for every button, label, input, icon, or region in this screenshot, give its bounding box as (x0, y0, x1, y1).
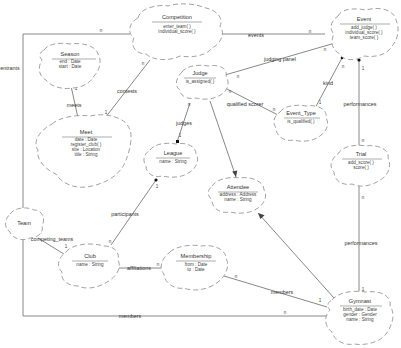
class-name: Meet (80, 129, 93, 135)
edge-judge-attendee (210, 101, 236, 177)
class-name: Season (61, 51, 80, 57)
mult-events-event: n (309, 29, 312, 34)
class-name: Event_Type (286, 110, 316, 116)
label-participants: participants (111, 211, 139, 217)
class-season[interactable]: Season end : Date start : Date (39, 43, 100, 88)
class-member: name : String (346, 317, 374, 322)
class-name: Attendee (227, 184, 249, 190)
label-members-team: members (119, 313, 142, 319)
class-member: name : String (76, 262, 104, 267)
class-competition[interactable]: Competition enter_team( ) individual_sco… (130, 4, 223, 60)
class-name: League (164, 150, 183, 156)
mult-kind-event: n (342, 64, 345, 69)
class-judge[interactable]: Judge is_assigned( ) (176, 65, 228, 99)
class-trial[interactable]: Trial add_score( ) score( ) (331, 145, 390, 186)
mult-contests-meet: 1 (105, 110, 108, 115)
mult-competing-club: 1 (65, 244, 68, 249)
mult-judging-panel-event: n (324, 47, 327, 52)
class-member: team_score( ) (350, 35, 379, 40)
label-events: events (248, 32, 264, 38)
label-contests: contests (117, 88, 137, 94)
class-attendee[interactable]: Attendee address : Address name : String (208, 177, 265, 213)
class-member: score( ) (353, 165, 369, 170)
mult-participants-club: n (109, 239, 112, 244)
mult-members-team-gymnast: n (284, 310, 287, 315)
mult-performances-event: 1 (362, 66, 365, 71)
class-name: Competition (162, 14, 192, 20)
arrowhead-gymnast-attendee (258, 213, 265, 219)
class-gymnast[interactable]: Gymnast birth_date : Date gender : Gende… (326, 291, 393, 344)
label-members-membership: members (271, 289, 294, 295)
class-team[interactable]: Team (6, 208, 44, 240)
label-kind: kind (323, 80, 333, 86)
class-member: is_qualified( ) (287, 119, 315, 124)
mult-qualified-eventtype: n (273, 107, 276, 112)
class-meet[interactable]: Meet date : Date register_club( ) site :… (36, 115, 131, 188)
class-member: title : String (75, 152, 98, 157)
mult-performances-trial-bottom: n (362, 195, 365, 200)
label-affiliations: affiliations (127, 265, 151, 271)
mult-judges-league: 1 (179, 133, 182, 138)
mult-contests-competition: n (142, 61, 145, 66)
class-member: to : Date (187, 267, 205, 272)
class-member: name : String (224, 197, 252, 202)
mult-members-gymnast: 1 (319, 298, 322, 303)
mult-members-membership: n (235, 274, 238, 279)
edge-gymnast-attendee (258, 213, 334, 298)
mult-performances-trial-top: n (362, 138, 365, 143)
class-name: Judge (192, 70, 207, 76)
arrowhead-judge-attendee (232, 171, 237, 177)
mult-judges-judge: n (188, 102, 191, 107)
label-judging-panel: judging panel (263, 56, 296, 62)
mult-judging-panel-judge: n (237, 74, 240, 79)
class-name: Team (17, 220, 31, 226)
class-member: is_assigned( ) (186, 79, 215, 84)
class-member: name : String (159, 159, 187, 164)
mult-entrants-competition: n (100, 28, 103, 33)
dot-league-participants (154, 178, 157, 181)
mult-qualified-judge: n (229, 89, 232, 94)
mult-affiliations-membership: n (157, 262, 160, 267)
class-membership[interactable]: Membership from : Date to : Date (161, 245, 227, 290)
square-league-judges (176, 140, 179, 143)
mult-participants-league: 1 (156, 184, 159, 189)
class-diagram: entrants events contests meets judging p… (0, 0, 401, 348)
class-member: start : Date (59, 64, 82, 69)
label-entrants: entrants (0, 65, 20, 71)
label-judges: judges (175, 120, 192, 126)
label-performances-event: performances (344, 101, 377, 107)
class-league[interactable]: League name : String (144, 143, 198, 177)
class-name: Gymnast (349, 298, 372, 304)
mult-kind-eventtype: 1 (319, 100, 322, 105)
label-performances-gymnast: performances (345, 240, 378, 246)
label-meets: meets (67, 102, 82, 108)
label-qualified-scorer: qualified scorer (227, 101, 264, 107)
class-club[interactable]: Club name : String (59, 244, 120, 288)
class-member: individual_score( ) (158, 29, 196, 34)
class-name: Trial (356, 151, 367, 157)
class-event[interactable]: Event add_judge( ) individual_score( ) t… (331, 8, 398, 59)
label-competing-teams: competing_teams (31, 236, 74, 242)
class-name: Event (357, 16, 372, 22)
class-event-type[interactable]: Event_Type is_qualified( ) (274, 105, 328, 141)
class-name: Club (84, 253, 96, 259)
class-name: Membership (181, 253, 212, 259)
